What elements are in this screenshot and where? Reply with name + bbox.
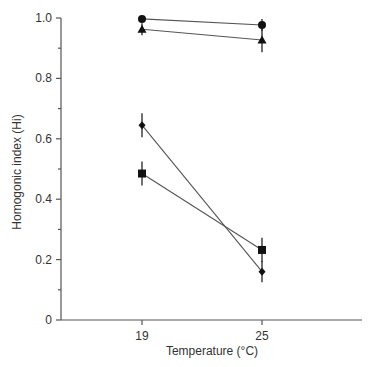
line-chart: 00.20.40.60.81.01925 Temperature (°C) Ho… xyxy=(0,0,385,367)
series-square xyxy=(138,161,266,262)
x-tick-label: 19 xyxy=(135,329,149,343)
x-axis-label: Temperature (°C) xyxy=(166,344,258,358)
series-line xyxy=(142,29,262,40)
y-tick-label: 0.4 xyxy=(35,192,52,206)
series-line xyxy=(142,125,262,271)
series-diamond xyxy=(139,113,266,282)
circle-marker xyxy=(138,15,146,23)
y-tick-label: 0 xyxy=(45,313,52,327)
chart-canvas: 00.20.40.60.81.01925 Temperature (°C) Ho… xyxy=(0,0,385,367)
series-triangle xyxy=(138,23,267,52)
triangle-marker xyxy=(138,25,147,33)
series-circle xyxy=(138,15,266,31)
y-tick-label: 0.6 xyxy=(35,132,52,146)
series-layer xyxy=(138,15,267,282)
axes: 00.20.40.60.81.01925 xyxy=(35,11,362,343)
square-marker xyxy=(138,170,146,178)
series-line xyxy=(142,174,262,250)
y-axis-label: Homogonic index (Hi) xyxy=(10,114,24,229)
y-tick-label: 1.0 xyxy=(35,11,52,25)
circle-marker xyxy=(258,21,266,29)
y-tick-label: 0.8 xyxy=(35,71,52,85)
square-marker xyxy=(258,246,266,254)
series-line xyxy=(142,19,262,25)
y-tick-label: 0.2 xyxy=(35,253,52,267)
x-tick-label: 25 xyxy=(255,329,269,343)
